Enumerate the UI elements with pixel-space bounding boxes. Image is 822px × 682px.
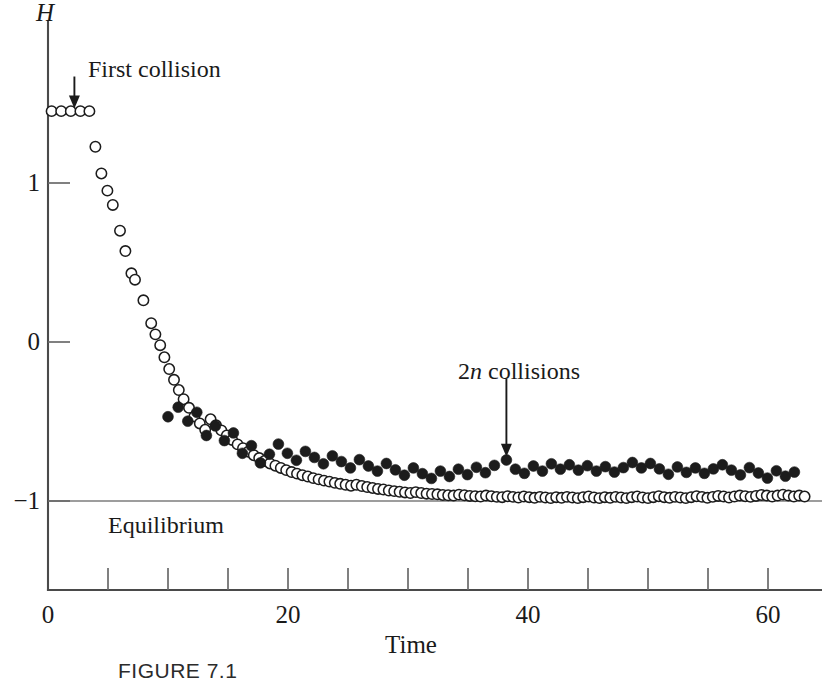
data-point-filled — [291, 455, 302, 466]
data-point-filled — [182, 416, 193, 427]
data-point-filled — [519, 468, 530, 479]
data-point-filled — [399, 470, 410, 481]
y-tick-label: 1 — [0, 170, 40, 195]
data-point-open — [130, 274, 140, 284]
data-point-filled — [537, 466, 548, 477]
data-point-filled — [201, 430, 212, 441]
annotation-2n-collisions: 2n collisions — [458, 359, 580, 383]
data-point-filled — [264, 449, 275, 460]
data-point-open — [138, 295, 148, 305]
data-point-open — [164, 364, 174, 374]
data-point-filled — [336, 456, 347, 467]
data-point-filled — [309, 452, 320, 463]
data-point-open — [108, 200, 118, 210]
x-tick-label: 0 — [8, 602, 88, 627]
data-point-filled — [282, 448, 293, 459]
data-point-open — [120, 246, 130, 256]
x-tick-label: 40 — [488, 602, 568, 627]
data-point-filled — [163, 411, 174, 422]
annotation-first-collision: First collision — [88, 57, 221, 81]
data-point-open — [90, 142, 100, 152]
data-point-filled — [273, 439, 284, 450]
data-point-filled — [426, 473, 437, 484]
data-point-open — [84, 106, 94, 116]
data-point-filled — [191, 407, 202, 418]
data-point-filled — [762, 473, 773, 484]
data-point-filled — [228, 428, 239, 439]
data-point-filled — [462, 469, 473, 480]
data-point-filled — [489, 460, 500, 471]
data-point-filled — [480, 467, 491, 478]
figure-caption: FIGURE 7.1 — [118, 660, 237, 681]
data-point-filled — [255, 457, 266, 468]
data-point-filled — [318, 458, 329, 469]
x-axis-label: Time — [0, 632, 822, 657]
data-point-open — [96, 168, 106, 178]
data-point-open — [799, 491, 809, 501]
equilibrium-label: Equilibrium — [108, 513, 224, 537]
data-point-filled — [246, 440, 257, 451]
data-point-open — [159, 352, 169, 362]
data-point-filled — [372, 466, 383, 477]
data-point-open — [155, 340, 165, 350]
x-tick-label: 20 — [248, 602, 328, 627]
data-point-open — [102, 185, 112, 195]
data-point-filled — [345, 463, 356, 474]
data-point-open — [146, 318, 156, 328]
annotation-arrowhead — [501, 444, 512, 457]
data-point-filled — [663, 469, 674, 480]
data-point-filled — [210, 421, 221, 432]
data-point-filled — [381, 458, 392, 469]
data-point-open — [150, 329, 160, 339]
y-axis-label: H — [36, 0, 54, 25]
y-tick-label: −1 — [0, 488, 40, 513]
data-point-filled — [173, 402, 184, 413]
data-point-filled — [735, 470, 746, 481]
data-point-filled — [444, 471, 455, 482]
data-point-open — [169, 375, 179, 385]
data-point-filled — [219, 435, 230, 446]
data-point-filled — [789, 467, 800, 478]
x-tick-label: 60 — [728, 602, 808, 627]
data-point-filled — [237, 448, 248, 459]
y-tick-label: 0 — [0, 329, 40, 354]
data-point-filled — [354, 454, 365, 465]
data-point-open — [115, 226, 125, 236]
